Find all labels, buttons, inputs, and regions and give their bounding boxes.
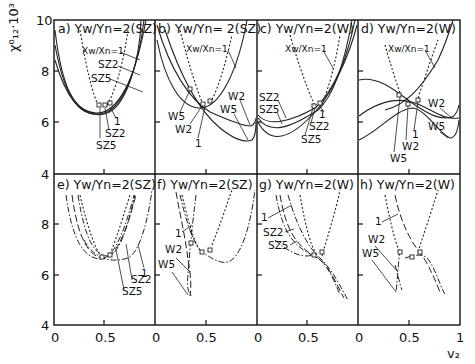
svg-text:e) Yw/Yn=2(SZ): e) Yw/Yn=2(SZ): [57, 177, 156, 192]
svg-text:1: 1: [175, 227, 182, 239]
svg-text:SZ2: SZ2: [105, 127, 126, 139]
svg-text:6: 6: [41, 115, 49, 130]
svg-text:Xw/Xn=1: Xw/Xn=1: [186, 44, 228, 54]
svg-text:SZ5: SZ5: [268, 239, 289, 251]
svg-text:1: 1: [195, 137, 202, 149]
svg-text:8: 8: [41, 217, 49, 232]
y-axis-label: χ⁰₁₂·10³: [6, 3, 21, 52]
svg-text:W5: W5: [428, 120, 445, 132]
svg-text:W2: W2: [228, 90, 245, 102]
svg-text:SZ2: SZ2: [98, 58, 119, 70]
svg-text:SZ5: SZ5: [96, 139, 117, 151]
svg-text:0.5: 0.5: [95, 330, 116, 345]
svg-text:10: 10: [36, 13, 53, 28]
svg-text:W2: W2: [165, 243, 182, 255]
svg-text:g) Yw/Yn=2(W): g) Yw/Yn=2(W): [259, 177, 354, 192]
svg-text:8: 8: [41, 64, 49, 79]
svg-text:Xw/Xn=1: Xw/Xn=1: [388, 44, 430, 54]
svg-text:1: 1: [114, 115, 121, 127]
panel-h: h) Yw/Yn=2(W) 1 W2 W5: [360, 177, 455, 295]
phase-diagram-figure: χ⁰₁₂·10³ 10 8 6 4 8 6 4 0 0.5 0 0.5: [0, 0, 475, 364]
svg-text:1: 1: [456, 330, 464, 345]
svg-text:0.5: 0.5: [196, 330, 217, 345]
svg-text:d) Yw/Yn=2(W): d) Yw/Yn=2(W): [361, 21, 456, 36]
x-axis-label: v₂: [447, 346, 460, 361]
svg-text:W2: W2: [368, 233, 385, 245]
svg-text:h) Yw/Yn=2(W): h) Yw/Yn=2(W): [360, 177, 455, 192]
svg-text:Xw/Xn=1: Xw/Xn=1: [285, 44, 327, 54]
svg-text:c) Yw/Yn=2(W): c) Yw/Yn=2(W): [260, 21, 354, 36]
svg-text:W5: W5: [220, 103, 237, 115]
svg-text:SZ5: SZ5: [259, 103, 280, 115]
svg-text:Xw/Xn=1: Xw/Xn=1: [82, 46, 124, 56]
panel-f: f) Yw/Yn=2(SZ) 1 W2 W5: [157, 177, 255, 296]
svg-text:W2: W2: [428, 97, 445, 109]
svg-text:W5: W5: [168, 110, 185, 122]
svg-text:W5: W5: [390, 152, 407, 164]
svg-text:SZ2: SZ2: [309, 120, 330, 132]
svg-text:f) Yw/Yn=2(SZ): f) Yw/Yn=2(SZ): [157, 177, 253, 192]
svg-text:W5: W5: [362, 247, 379, 259]
panel-c: c) Yw/Yn=2(W) Xw/Xn=1 SZ2 SZ5 1 SZ2 SZ5: [258, 20, 357, 145]
svg-text:W2: W2: [175, 123, 192, 135]
svg-text:0.5: 0.5: [399, 330, 420, 345]
svg-text:4: 4: [41, 167, 49, 182]
svg-text:0: 0: [355, 330, 363, 345]
svg-text:0.5: 0.5: [298, 330, 319, 345]
panel-a: a) Yw/Yn=2(SZ) Xw/Xn=1 SZ2 SZ5 1 SZ2 SZ5: [55, 20, 157, 151]
svg-text:1: 1: [375, 215, 382, 227]
panel-g: g) Yw/Yn=2(W) 1 SZ2 SZ5: [259, 177, 354, 300]
svg-text:0: 0: [51, 330, 59, 345]
svg-text:4: 4: [41, 318, 49, 333]
svg-text:SZ5: SZ5: [301, 133, 322, 145]
svg-text:0: 0: [254, 330, 262, 345]
y-tick-labels: 10 8 6 4 8 6 4: [36, 13, 53, 333]
svg-text:W5: W5: [158, 258, 175, 270]
x-tick-labels: 0 0.5 0 0.5 0 0.5 0 0.5 1 v₂: [51, 330, 464, 361]
svg-text:SZ5: SZ5: [122, 285, 143, 297]
svg-text:SZ5: SZ5: [91, 72, 112, 84]
svg-text:1: 1: [261, 211, 268, 223]
panel-d: d) Yw/Yn=2(W) Xw/Xn=1 W2 W5 1 W2 W5: [359, 20, 459, 164]
svg-text:6: 6: [41, 268, 49, 283]
svg-text:χ⁰₁₂·10³: χ⁰₁₂·10³: [6, 3, 21, 52]
svg-text:1: 1: [412, 128, 419, 140]
panel-b: b) Yw/Yn= 2(SZ) Xw/Xn=1 W2 W5 W5 W2 1: [157, 20, 261, 149]
panel-e: e) Yw/Yn=2(SZ) 1 SZ2 SZ5: [57, 177, 156, 297]
svg-text:0: 0: [152, 330, 160, 345]
svg-text:SZ2: SZ2: [131, 273, 152, 285]
svg-text:SZ2: SZ2: [263, 226, 284, 238]
svg-text:W2: W2: [402, 140, 419, 152]
svg-text:SZ2: SZ2: [259, 91, 280, 103]
